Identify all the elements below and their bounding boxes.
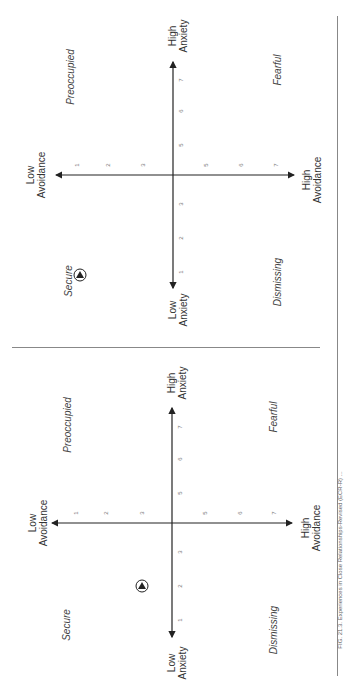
quadrant-preoccupied: Preoccupied (62, 397, 73, 453)
low-avoidance-label: Low Avoidance (25, 152, 47, 199)
anxiety-tick: 6 (177, 457, 183, 460)
high-avoidance-label: High Avoidance (300, 505, 322, 552)
diagram-panel-bottom: Low Avoidance High Avoidance High Anxiet… (0, 345, 330, 686)
quadrant-preoccupied: Preoccupied (65, 49, 76, 105)
anxiety-tick: 1 (178, 270, 184, 273)
quadrant-fearful: Fearful (268, 401, 279, 432)
low-avoidance-label: Low Avoidance (27, 500, 49, 547)
avoidance-tick: 1 (73, 511, 79, 514)
avoidance-tick: 6 (237, 511, 243, 514)
avoidance-tick: 7 (271, 511, 277, 514)
avoidance-tick: 5 (202, 511, 208, 514)
anxiety-tick: 1 (177, 618, 183, 621)
high-anxiety-label: High Anxiety (167, 20, 189, 53)
avoidance-tick: 3 (140, 163, 146, 166)
high-avoidance-label: High Avoidance (301, 157, 323, 204)
anxiety-tick: 2 (178, 236, 184, 239)
avoidance-tick: 2 (105, 163, 111, 166)
avoidance-tick: 3 (139, 511, 145, 514)
anxiety-tick: 3 (178, 202, 184, 205)
anxiety-tick: 2 (177, 584, 183, 587)
low-anxiety-label: Low Anxiety (167, 294, 189, 327)
axes-graphic (0, 345, 330, 686)
quadrant-dismissing: Dismissing (272, 258, 283, 306)
anxiety-tick: 6 (178, 109, 184, 112)
diagram-panel-top: Low Avoidance High Avoidance High Anxiet… (0, 0, 330, 342)
anxiety-tick: 5 (178, 143, 184, 146)
anxiety-tick: 5 (177, 491, 183, 494)
avoidance-tick: 6 (238, 163, 244, 166)
low-anxiety-label: Low Anxiety (166, 647, 188, 680)
figure-caption: FIG. 21.3. Experiences in Close Relation… (337, 471, 343, 648)
avoidance-tick: 5 (203, 163, 209, 166)
avoidance-tick: 1 (74, 163, 80, 166)
quadrant-secure: Secure (61, 609, 72, 641)
quadrant-dismissing: Dismissing (268, 606, 279, 654)
avoidance-tick: 2 (103, 511, 109, 514)
anxiety-tick: 7 (178, 78, 184, 81)
quadrant-fearful: Fearful (272, 54, 283, 85)
high-anxiety-label: High Anxiety (166, 367, 188, 400)
quadrant-secure: Secure (63, 265, 74, 297)
anxiety-tick: 3 (177, 550, 183, 553)
avoidance-tick: 7 (273, 163, 279, 166)
anxiety-tick: 7 (177, 425, 183, 428)
